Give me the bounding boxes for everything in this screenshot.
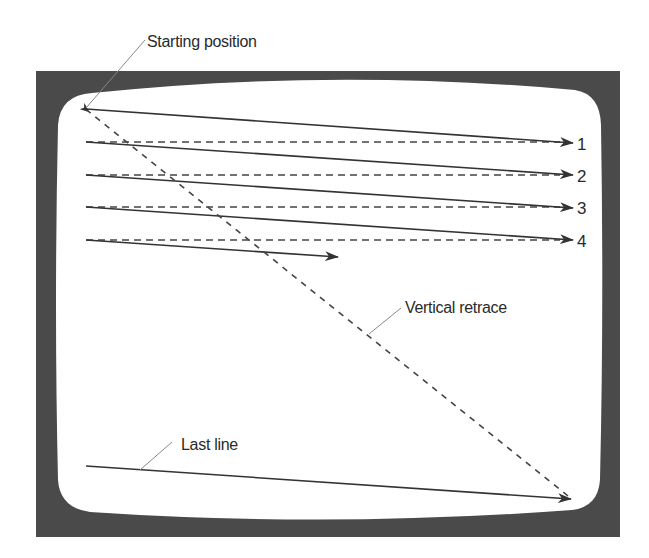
line-number-2: 2: [577, 167, 586, 186]
label-starting-position: Starting position: [147, 33, 257, 50]
label-vertical-retrace: Vertical retrace: [405, 299, 507, 316]
line-number-3: 3: [577, 199, 586, 218]
label-last-line: Last line: [181, 436, 238, 453]
crt-raster-scan-diagram: Starting position Vertical retrace Last …: [0, 0, 649, 558]
line-number-4: 4: [577, 232, 586, 251]
line-number-1: 1: [577, 135, 586, 154]
